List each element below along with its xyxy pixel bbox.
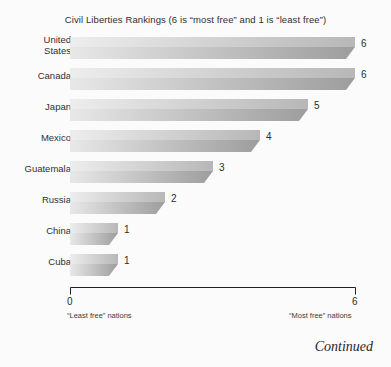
bar-value-label: 5 [314, 100, 320, 111]
category-label: Japan [0, 102, 71, 113]
bar-value-label: 6 [361, 69, 367, 80]
bar-shape [70, 223, 118, 245]
x-axis-line-with-ticks [71, 288, 356, 295]
bar-row: Russia2 [0, 188, 391, 219]
bar-value-label: 4 [266, 131, 272, 142]
bar-value-label: 6 [361, 38, 367, 49]
bar-row: China1 [0, 219, 391, 250]
bar [70, 130, 260, 152]
bar-row: United States6 [0, 33, 391, 64]
bar [70, 223, 118, 245]
category-label: United States [0, 35, 71, 56]
x-axis-tick-label-min: 0 [67, 296, 73, 307]
bar-shape [70, 130, 260, 152]
bar-shape [70, 161, 213, 183]
bar [70, 254, 118, 276]
bar-row: Japan5 [0, 95, 391, 126]
bar-shape [70, 37, 355, 59]
category-label: China [0, 226, 71, 237]
bar-shape [70, 254, 118, 276]
bar [70, 161, 213, 183]
bar-shape [70, 192, 165, 214]
category-label: Canada [0, 71, 71, 82]
x-axis-tick-label-max: 6 [352, 296, 358, 307]
bar [70, 99, 308, 121]
axis-note-most-free: “Most free” nations [289, 311, 352, 320]
bar-row: Canada6 [0, 64, 391, 95]
category-label: Guatemala [0, 164, 71, 175]
bar-shape [70, 68, 355, 90]
bar [70, 192, 165, 214]
bar [70, 37, 355, 59]
bar-value-label: 1 [124, 224, 130, 235]
category-label: Cuba [0, 257, 71, 268]
bar [70, 68, 355, 90]
category-label: Russia [0, 195, 71, 206]
bar-row: Mexico4 [0, 126, 391, 157]
bar-value-label: 1 [124, 255, 130, 266]
chart-title: Civil Liberties Rankings (6 is “most fre… [0, 14, 391, 25]
bar-row: Guatemala3 [0, 157, 391, 188]
category-label: Mexico [0, 133, 71, 144]
bar-value-label: 3 [219, 162, 225, 173]
axis-note-least-free: “Least free” nations [67, 311, 132, 320]
continued-note: Continued [315, 339, 373, 355]
bar-value-label: 2 [171, 193, 177, 204]
civil-liberties-bar-chart: Civil Liberties Rankings (6 is “most fre… [0, 0, 391, 367]
bar-shape [70, 99, 308, 121]
plot-area: United States6Canada6Japan5Mexico4Guatem… [0, 33, 391, 285]
bar-row: Cuba1 [0, 250, 391, 281]
